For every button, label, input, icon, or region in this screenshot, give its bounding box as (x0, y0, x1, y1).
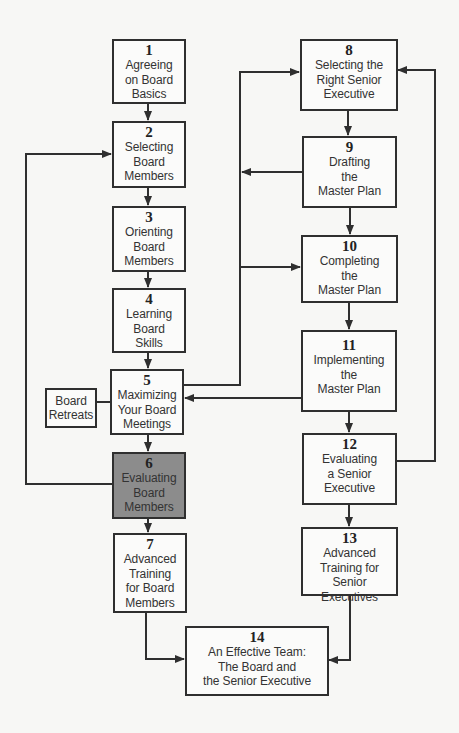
step-1-box: 1 Agreeing on Board Basics (112, 39, 186, 104)
step-number: 10 (342, 239, 357, 254)
step-label: Learning Board Skills (126, 307, 172, 351)
step-number: 7 (146, 537, 154, 552)
step-8-box: 8 Selecting the Right Senior Executive (300, 39, 398, 111)
step-label: Implementing the Master Plan (314, 353, 385, 397)
step-3-box: 3 Orienting Board Members (112, 206, 186, 272)
step-number: 13 (342, 531, 357, 546)
step-number: 1 (145, 43, 153, 58)
step-number: 12 (342, 437, 357, 452)
step-label: Agreeing on Board Basics (125, 58, 173, 102)
step-6-box: 6 Evaluating Board Members (112, 452, 186, 519)
step-label: Evaluating a Senior Executive (322, 452, 377, 496)
step-label: Advanced Training for Senior Executives (303, 546, 396, 604)
step-10-box: 10 Completing the Master Plan (301, 235, 398, 303)
step-label: Selecting Board Members (124, 140, 173, 184)
step-label: Completing the Master Plan (318, 254, 381, 298)
step-number: 9 (346, 140, 354, 155)
step-7-box: 7 Advanced Training for Board Members (113, 533, 187, 613)
step-number: 6 (145, 456, 153, 471)
step-label: Advanced Training for Board Members (124, 552, 177, 610)
step-12-box: 12 Evaluating a Senior Executive (302, 433, 397, 505)
step-14-box: 14 An Effective Team: The Board and the … (185, 626, 329, 696)
step-2-box: 2 Selecting Board Members (112, 121, 186, 188)
step-number: 8 (345, 43, 353, 58)
step-number: 5 (143, 373, 151, 388)
step-number: 4 (145, 292, 153, 307)
step-number: 14 (250, 630, 265, 645)
step-label: Evaluating Board Members (121, 471, 176, 515)
step-11-box: 11 Implementing the Master Plan (301, 330, 397, 412)
step-number: 2 (145, 125, 153, 140)
step-number: 3 (145, 210, 153, 225)
step-label: Selecting the Right Senior Executive (315, 58, 383, 102)
step-9-box: 9 Drafting the Master Plan (302, 136, 397, 208)
step-label: An Effective Team: The Board and the Sen… (203, 645, 311, 689)
step-4-box: 4 Learning Board Skills (112, 288, 186, 353)
step-13-box: 13 Advanced Training for Senior Executiv… (301, 527, 398, 596)
step-label: Drafting the Master Plan (318, 155, 381, 199)
side-box-label: Board Retreats (49, 394, 94, 423)
board-retreats-box: Board Retreats (45, 388, 97, 428)
step-number: 11 (342, 338, 356, 353)
step-label: Orienting Board Members (124, 225, 173, 269)
step-5-box: 5 Maximizing Your Board Meetings (110, 369, 184, 435)
step-label: Maximizing Your Board Meetings (117, 388, 176, 432)
